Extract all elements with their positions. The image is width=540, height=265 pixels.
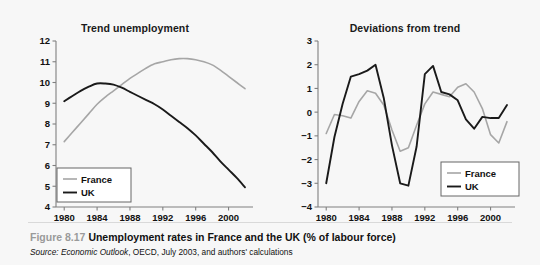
legend-label-france: France (465, 168, 496, 179)
legend-label-france: France (81, 174, 112, 185)
chart-legend: FranceUK (441, 162, 519, 196)
figure-container: Trend unemployment 456789101112198019841… (0, 0, 540, 265)
y-axis-tick-label: −2 (301, 154, 312, 165)
y-axis-tick-label: 3 (307, 35, 312, 46)
y-axis-tick-label: 9 (45, 98, 50, 109)
chart-plot-right: −4−3−2−10123198019841988199219962000Fran… (270, 0, 540, 222)
x-axis-tick-label: 1992 (414, 212, 435, 222)
x-axis-tick-label: 2000 (218, 212, 239, 222)
legend-label-uk: UK (465, 181, 479, 192)
chart-panel-trend-unemployment: Trend unemployment 456789101112198019841… (0, 0, 270, 222)
chart-legend: FranceUK (57, 168, 131, 202)
figure-source: Source: Economic Outlook, OECD, July 200… (30, 247, 293, 257)
legend-label-uk: UK (81, 187, 95, 198)
x-axis-tick-label: 1980 (54, 212, 75, 222)
caption-block: Figure 8.17 Unemployment rates in France… (0, 222, 540, 265)
figure-number: Figure 8.17 (30, 231, 85, 243)
y-axis-tick-label: 6 (45, 160, 50, 171)
x-axis-tick-label: 1996 (185, 212, 206, 222)
x-axis-tick-label: 2000 (480, 212, 501, 222)
x-axis-tick-label: 1988 (381, 212, 402, 222)
chart-plot-left: 456789101112198019841988199219962000Fran… (0, 0, 270, 222)
y-axis-tick-label: 10 (39, 77, 50, 88)
x-axis-tick-label: 1984 (87, 212, 109, 222)
y-axis-tick-label: −1 (301, 130, 313, 141)
x-axis-tick-label: 1996 (447, 212, 468, 222)
figure-title: Unemployment rates in France and the UK … (88, 231, 395, 243)
y-axis-tick-label: 2 (307, 59, 312, 70)
caption-divider (28, 222, 512, 223)
y-axis-tick-label: 0 (307, 107, 312, 118)
y-axis-tick-label: 8 (45, 118, 50, 129)
x-axis-tick-label: 1980 (316, 212, 337, 222)
source-publication: Economic Outlook (61, 247, 128, 257)
y-axis-tick-label: 7 (45, 139, 50, 150)
y-axis-tick-label: 1 (307, 83, 313, 94)
y-axis-tick-label: −4 (301, 201, 313, 212)
y-axis-tick-label: −3 (301, 178, 312, 189)
source-label: Source: (30, 247, 59, 257)
x-axis-tick-label: 1992 (152, 212, 173, 222)
y-axis-tick-label: 4 (45, 201, 51, 212)
chart-panel-deviations-from-trend: Deviations from trend −4−3−2−10123198019… (270, 0, 540, 222)
y-axis-tick-label: 12 (39, 35, 50, 46)
y-axis-tick-label: 5 (45, 181, 51, 192)
x-axis-tick-label: 1984 (349, 212, 371, 222)
figure-caption: Figure 8.17 Unemployment rates in France… (30, 231, 396, 243)
x-axis-tick-label: 1988 (119, 212, 140, 222)
y-axis-tick-label: 11 (40, 56, 51, 67)
series-line-france (64, 59, 245, 142)
source-rest: , OECD, July 2003, and authors' calculat… (128, 247, 292, 257)
